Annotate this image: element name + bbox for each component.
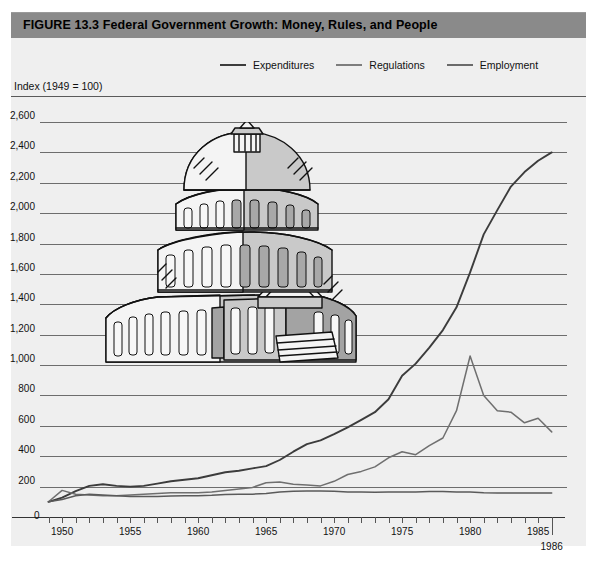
x-axis-tick (253, 517, 254, 523)
legend-item-expenditures[interactable]: Expenditures (220, 59, 314, 71)
x-axis-tick (185, 517, 186, 523)
x-axis-tick (457, 517, 458, 523)
gridline (40, 456, 567, 457)
x-axis-tick (484, 517, 485, 523)
x-axis-tick (144, 517, 145, 523)
x-axis-tick (470, 517, 471, 523)
x-axis-tick (62, 517, 63, 523)
x-axis-tick-label: 1980 (459, 526, 481, 537)
figure-title-bar: FIGURE 13.3 Federal Government Growth: M… (11, 12, 586, 39)
x-axis-tick (389, 517, 390, 523)
legend-swatch-regulations (336, 64, 362, 66)
x-axis-tick-label: 1950 (51, 526, 73, 537)
legend-label-employment: Employment (480, 59, 538, 71)
x-axis-tick (348, 517, 349, 523)
x-axis-tick (130, 517, 131, 523)
legend-label-expenditures: Expenditures (253, 59, 314, 71)
y-axis-tick-label: 1,600 (10, 261, 35, 272)
x-axis-tick (402, 517, 403, 523)
x-axis-tick (538, 517, 539, 523)
x-axis-tick (239, 517, 240, 523)
x-axis-tick (375, 517, 376, 523)
y-axis-tick-label: 400 (18, 444, 35, 455)
y-axis-zero-label: 0 (34, 510, 40, 521)
legend-item-employment[interactable]: Employment (447, 59, 538, 71)
x-axis-tick-label: 1960 (187, 526, 209, 537)
legend-swatch-employment (447, 64, 473, 66)
x-axis-tick (266, 517, 267, 523)
us-capitol-building-icon: .ln{fill:none;stroke:#111;stroke-width:1… (100, 122, 362, 366)
y-axis-tick-label: 2,200 (10, 170, 35, 181)
y-axis-title: Index (1949 = 100) (14, 80, 102, 92)
y-axis-tick-label: 800 (18, 383, 35, 394)
x-axis-tick (49, 517, 50, 523)
y-axis-tick-label: 1,400 (10, 292, 35, 303)
x-axis-tick (416, 517, 417, 523)
y-axis-tick-label: 600 (18, 413, 35, 424)
page-title: FIGURE 13.3 Federal Government Growth: M… (23, 18, 437, 32)
x-axis-tick (171, 517, 172, 523)
y-axis-tick-label: 200 (18, 474, 35, 485)
gridline (40, 426, 567, 427)
y-axis-tick-label: 2,000 (10, 201, 35, 212)
chart-legend: Expenditures Regulations Employment (220, 57, 580, 73)
x-axis-tick (117, 517, 118, 523)
y-axis-tick-label: 1,200 (10, 322, 35, 333)
x-axis-tick (307, 517, 308, 523)
legend-swatch-expenditures (220, 64, 246, 66)
x-axis-tick (76, 517, 77, 523)
x-axis-tick (212, 517, 213, 523)
figure-container: FIGURE 13.3 Federal Government Growth: M… (0, 0, 597, 563)
y-axis-tick-label: 1,800 (10, 231, 35, 242)
y-axis-tick-label: 2,400 (10, 140, 35, 151)
x-axis-end-tick (552, 517, 553, 535)
x-axis-tick-label: 1985 (527, 526, 549, 537)
x-axis-tick (525, 517, 526, 523)
x-axis-tick (293, 517, 294, 523)
x-axis-tick (497, 517, 498, 523)
y-axis-tick-label: 1,000 (10, 353, 35, 364)
x-axis-tick-label: 1975 (391, 526, 413, 537)
x-axis-tick-label: 1965 (255, 526, 277, 537)
x-axis-tick (225, 517, 226, 523)
x-axis-tick (198, 517, 199, 523)
x-axis-tick (443, 517, 444, 523)
y-axis-title-rule (11, 96, 586, 97)
x-axis-tick (334, 517, 335, 523)
x-axis-tick (429, 517, 430, 523)
x-axis-tick (103, 517, 104, 523)
legend-label-regulations: Regulations (369, 59, 424, 71)
x-axis-end-label: 1986 (541, 541, 563, 552)
x-axis-tick-label: 1955 (119, 526, 141, 537)
legend-item-regulations[interactable]: Regulations (336, 59, 424, 71)
y-axis-tick-label: 2,600 (10, 110, 35, 121)
x-axis-tick (321, 517, 322, 523)
x-axis-tick-label: 1970 (323, 526, 345, 537)
x-axis-line (12, 517, 565, 518)
x-axis-tick (157, 517, 158, 523)
x-axis-tick (511, 517, 512, 523)
gridline (40, 487, 567, 488)
gridline (40, 395, 567, 396)
x-axis-tick (280, 517, 281, 523)
x-axis-tick (361, 517, 362, 523)
x-axis-tick (89, 517, 90, 523)
